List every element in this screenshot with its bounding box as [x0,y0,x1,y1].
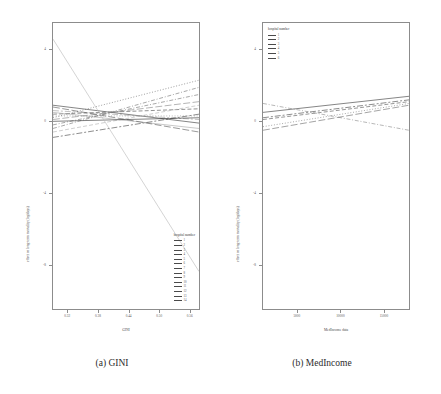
x-tick-label: 0.44 [126,314,132,318]
series-line [53,80,199,118]
legend-label: 3 [278,43,280,46]
legend-label: 2 [183,244,185,247]
legend-label: 10 [183,281,186,284]
subcaption-gini: (a) GINI [12,358,212,368]
legend-label: 5 [278,52,280,55]
legend-label: 7 [183,267,185,270]
y-tick-mark [259,265,262,266]
legend-item: 6 [268,56,289,61]
y-tick-mark [49,121,52,122]
x-tick-mark [159,310,160,313]
legend-swatch [174,296,182,297]
legend-swatch [268,58,276,59]
legend-swatch [174,282,182,283]
legend-swatch [174,245,182,246]
legend-label: 11 [183,285,186,288]
x-tick-label: 15000 [380,314,388,318]
subfigure-medincome: hospital number 123456 40-4-8 5000100001… [224,10,420,350]
legend-swatch [174,240,182,241]
legend-swatch [268,39,276,40]
x-tick-mark [190,310,191,313]
y-tick-label: -8 [226,263,256,267]
legend-medincome: hospital number 123456 [268,28,289,60]
plot-lines-medincome [263,23,409,309]
legend-item: 14 [174,298,195,303]
legend-swatch [268,44,276,45]
two-panel-figure: hospital number 1234567891011121314 40-4… [0,0,441,394]
x-tick-mark [67,310,68,313]
legend-swatch [174,254,182,255]
x-tick-label: 0.56 [187,314,193,318]
y-tick-label: 4 [16,47,46,51]
legend-swatch [174,277,182,278]
x-axis-title-gini: GINI [52,328,200,332]
x-tick-mark [384,310,385,313]
y-tick-mark [49,265,52,266]
plot-area-medincome: hospital number 123456 [262,22,410,310]
legend-label: 12 [183,290,186,293]
y-tick-label: 0 [226,119,256,123]
x-tick-label: 5000 [293,314,300,318]
legend-label: 1 [183,239,185,242]
y-tick-mark [49,193,52,194]
y-tick-mark [259,193,262,194]
y-tick-mark [259,121,262,122]
x-tick-label: 0.38 [95,314,101,318]
legend-label: 4 [278,47,280,50]
legend-label: 5 [183,258,185,261]
legend-label: 8 [183,272,185,275]
legend-swatch [174,259,182,260]
legend-title: hospital number [268,28,289,31]
legend-swatch [174,268,182,269]
y-tick-label: -4 [16,191,46,195]
legend-swatch [174,291,182,292]
x-tick-mark [340,310,341,313]
y-axis-title-gini: effect on long-term mortality (log/days) [26,206,30,262]
x-tick-label: 0.32 [64,314,70,318]
x-tick-mark [129,310,130,313]
x-tick-label: 10000 [336,314,344,318]
y-tick-label: -8 [16,263,46,267]
legend-label: 4 [183,253,185,256]
x-tick-label: 0.50 [156,314,162,318]
series-line [53,118,199,122]
legend-label: 13 [183,295,186,298]
y-axis-title-medincome: effect on long-term mortality (log/days) [236,206,240,262]
legend-title: hospital number [174,234,195,237]
legend-gini: hospital number 1234567891011121314 [174,234,195,303]
legend-swatch [268,53,276,54]
legend-label: 9 [183,276,185,279]
y-tick-mark [259,49,262,50]
y-tick-label: 4 [226,47,256,51]
legend-swatch [174,286,182,287]
subfigure-gini: hospital number 1234567891011121314 40-4… [14,10,210,350]
legend-label: 1 [278,34,280,37]
legend-rows: 123456 [268,33,289,61]
subcaption-medincome: (b) MedIncome [222,358,422,368]
x-tick-mark [98,310,99,313]
legend-rows: 1234567891011121314 [174,239,195,303]
x-tick-mark [297,310,298,313]
legend-swatch [174,250,182,251]
x-axis-title-medincome: MedIncome data [262,328,410,332]
legend-swatch [174,300,182,301]
legend-swatch [268,35,276,36]
series-line [263,103,409,126]
legend-label: 2 [278,38,280,41]
legend-label: 3 [183,249,185,252]
legend-label: 6 [278,57,280,60]
legend-label: 6 [183,262,185,265]
y-tick-label: -4 [226,191,256,195]
y-tick-label: 0 [16,119,46,123]
legend-swatch [174,263,182,264]
legend-swatch [174,273,182,274]
y-tick-mark [49,49,52,50]
plot-area-gini: hospital number 1234567891011121314 [52,22,200,310]
legend-swatch [268,48,276,49]
legend-label: 14 [183,299,186,302]
